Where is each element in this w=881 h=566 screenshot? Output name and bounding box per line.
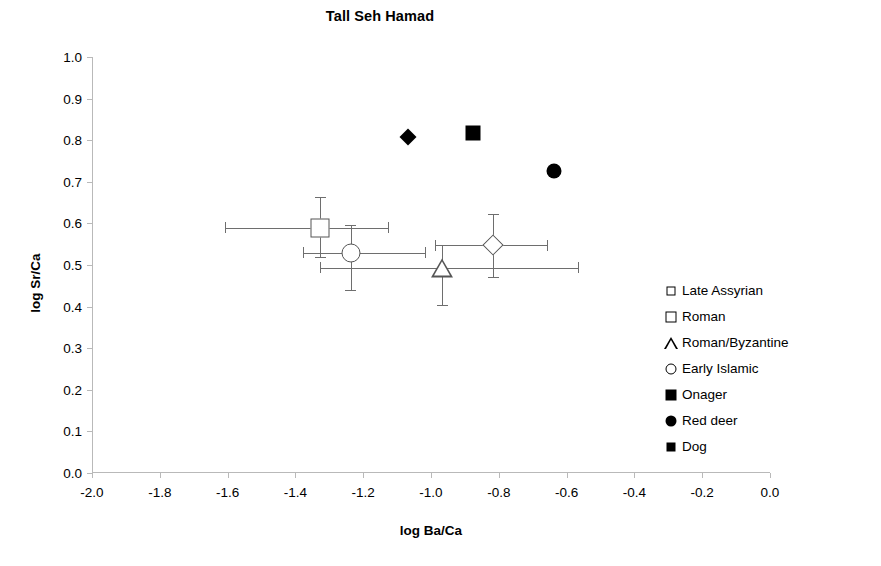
x-tick-mark: [431, 473, 432, 478]
y-tick-label: 0.6: [36, 216, 82, 231]
legend-key-shape: [667, 287, 676, 296]
marker-circle-open-icon: [341, 243, 360, 262]
error-bar-horizontal: [225, 228, 388, 229]
legend-key-shape: [666, 364, 677, 375]
error-bar-cap-left: [225, 222, 226, 233]
x-tick-label: -0.2: [672, 485, 732, 500]
legend-item-label: Late Assyrian: [682, 284, 763, 298]
data-point-onager: [465, 126, 480, 141]
error-bar-cap-top: [345, 225, 356, 226]
chart-container: Tall Seh Hamad log Sr/Ca log Ba/Ca 1.00.…: [0, 0, 881, 566]
error-bar-cap-bottom: [315, 257, 326, 258]
legend-item-late-assyrian[interactable]: Late Assyrian: [660, 278, 875, 304]
data-point-roman-byzantine: [431, 258, 453, 277]
x-tick-mark: [634, 473, 635, 478]
chart-legend: Late AssyrianRomanRoman/ByzantineEarly I…: [660, 278, 875, 460]
marker-square-fill-icon: [465, 126, 480, 141]
x-tick-mark: [92, 473, 93, 478]
error-bar-cap-right: [578, 262, 579, 273]
error-bar-cap-bottom: [437, 305, 448, 306]
marker-circle-fill-icon: [547, 163, 562, 178]
legend-item-roman-byzantine[interactable]: Roman/Byzantine: [660, 330, 875, 356]
x-tick-label: -0.6: [537, 485, 597, 500]
legend-item-label: Early Islamic: [682, 362, 759, 376]
y-tick-label: 0.3: [36, 341, 82, 356]
legend-item-red-deer[interactable]: Red deer: [660, 408, 875, 434]
error-bar-cap-top: [315, 197, 326, 198]
y-tick-label: 1.0: [36, 50, 82, 65]
chart-title: Tall Seh Hamad: [0, 8, 760, 24]
legend-key-shape: [666, 390, 677, 401]
x-tick-label: -1.2: [333, 485, 393, 500]
error-bar-cap-bottom: [488, 277, 499, 278]
data-point-roman: [311, 218, 330, 237]
marker-triangle-open-icon: [431, 258, 453, 277]
x-tick-mark: [295, 473, 296, 478]
legend-item-dog[interactable]: Dog: [660, 434, 875, 460]
error-bar-cap-right: [425, 247, 426, 258]
legend-item-label: Roman/Byzantine: [682, 336, 789, 350]
legend-marker-diamond-open-icon: [660, 280, 682, 302]
legend-marker-square-open-icon: [660, 306, 682, 328]
legend-item-onager[interactable]: Onager: [660, 382, 875, 408]
legend-key-shape: [666, 416, 677, 427]
y-tick-label: 0.9: [36, 91, 82, 106]
error-bar-cap-top: [488, 214, 499, 215]
data-point-early-islamic: [341, 243, 360, 262]
legend-marker-triangle-open-icon: [660, 332, 682, 354]
error-bar-cap-top: [437, 245, 448, 246]
y-tick-label: 0.5: [36, 258, 82, 273]
data-point-dog: [400, 128, 417, 145]
y-tick-label: 0.7: [36, 174, 82, 189]
x-tick-label: -1.4: [265, 485, 325, 500]
error-bar-cap-left: [303, 247, 304, 258]
x-tick-mark: [160, 473, 161, 478]
x-tick-label: -1.0: [401, 485, 461, 500]
error-bar-cap-bottom: [345, 290, 356, 291]
y-tick-label: 0.2: [36, 382, 82, 397]
y-tick-label: 0.0: [36, 466, 82, 481]
legend-item-label: Red deer: [682, 414, 738, 428]
legend-marker-circle-fill-icon: [660, 410, 682, 432]
x-tick-mark: [228, 473, 229, 478]
error-bar-cap-right: [547, 240, 548, 251]
x-tick-label: -0.4: [604, 485, 664, 500]
y-tick-label: 0.8: [36, 133, 82, 148]
error-bar-horizontal: [303, 253, 425, 254]
marker-diamond-fill-icon: [400, 128, 417, 145]
data-point-late-assyrian: [482, 234, 503, 255]
x-tick-mark: [499, 473, 500, 478]
legend-marker-diamond-fill-icon: [660, 436, 682, 458]
x-tick-mark: [702, 473, 703, 478]
marker-square-open-icon: [311, 218, 330, 237]
legend-item-early-islamic[interactable]: Early Islamic: [660, 356, 875, 382]
x-tick-label: -2.0: [62, 485, 122, 500]
x-tick-mark: [770, 473, 771, 478]
legend-item-label: Onager: [682, 388, 727, 402]
x-tick-mark: [363, 473, 364, 478]
error-bar-cap-right: [388, 222, 389, 233]
legend-key-shape: [666, 312, 677, 323]
x-tick-label: 0.0: [740, 485, 800, 500]
x-tick-label: -1.6: [198, 485, 258, 500]
x-tick-label: -0.8: [469, 485, 529, 500]
x-tick-label: -1.8: [130, 485, 190, 500]
marker-diamond-open-icon: [482, 234, 503, 255]
legend-key-shape: [667, 443, 676, 452]
x-tick-mark: [567, 473, 568, 478]
legend-key-shape: [664, 337, 678, 349]
legend-marker-circle-open-icon: [660, 358, 682, 380]
legend-item-label: Dog: [682, 440, 707, 454]
data-point-red-deer: [547, 163, 562, 178]
y-tick-label: 0.1: [36, 424, 82, 439]
y-tick-label: 0.4: [36, 299, 82, 314]
error-bar-cap-left: [320, 262, 321, 273]
x-axis-title: log Ba/Ca: [92, 523, 770, 538]
legend-marker-square-fill-icon: [660, 384, 682, 406]
legend-item-roman[interactable]: Roman: [660, 304, 875, 330]
legend-item-label: Roman: [682, 310, 726, 324]
